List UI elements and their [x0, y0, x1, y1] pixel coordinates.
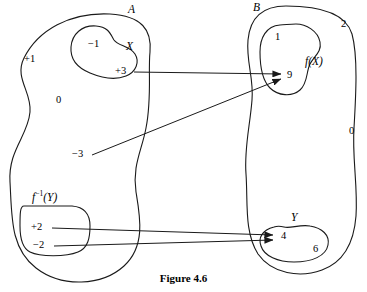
element-minus2: −2 [33, 240, 44, 251]
map-plus3-to-9-arrow [134, 72, 281, 74]
element-six: 6 [313, 244, 318, 255]
map-minus3-to-9-arrow [92, 79, 281, 155]
set-a-label: A [128, 4, 135, 16]
element-four: 4 [281, 231, 286, 242]
diagram-canvas [0, 0, 367, 292]
f-of-x-close-paren: ) [319, 55, 323, 67]
element-plus1: +1 [24, 54, 35, 65]
map-plus2-to-4-arrow [52, 228, 273, 235]
element-minus1: −1 [88, 39, 99, 50]
f-inverse-y-exponent: −1 [35, 189, 43, 198]
element-zero-a: 0 [56, 95, 61, 106]
subset-f-inverse-y-label: f−1(Y) [32, 190, 57, 203]
element-one: 1 [275, 32, 280, 43]
set-b-label: B [253, 2, 260, 14]
element-two: 2 [341, 19, 346, 30]
f-inverse-y-close-paren: ) [53, 191, 57, 203]
element-minus3: −3 [72, 149, 83, 160]
subset-f-of-x-label: f(X) [305, 56, 323, 68]
element-plus2: +2 [31, 222, 42, 233]
element-plus3: +3 [115, 66, 126, 77]
figure-caption: Figure 4.6 [0, 272, 367, 284]
element-zero-b: 0 [349, 126, 354, 137]
subset-y-label: Y [291, 212, 297, 224]
element-nine: 9 [287, 70, 292, 81]
subset-x-label: X [126, 41, 133, 53]
figure-4-6-set-mapping-diagram: A B X Y f(X) f−1(Y) +1 0 −3 −1 +3 +2 −2 … [0, 0, 367, 292]
